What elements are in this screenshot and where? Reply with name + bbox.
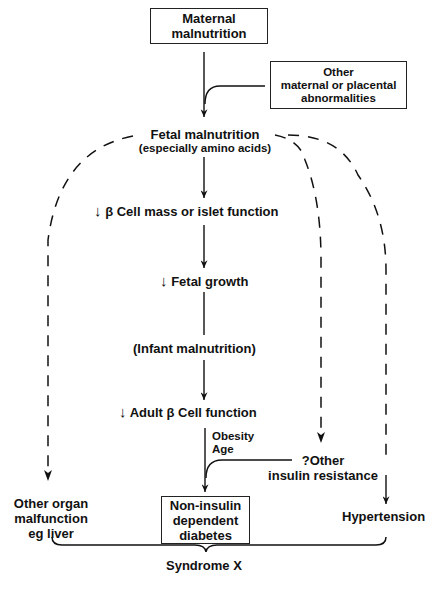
maternal-line1: Maternal xyxy=(182,11,235,26)
dashed-arrowhead-middle xyxy=(317,432,325,443)
other-organ-line2: malfunction xyxy=(6,511,96,526)
other-resistance-line1: ?Other xyxy=(262,453,384,468)
dashed-to-hypertension xyxy=(288,135,386,455)
niddm-line1: Non-insulin xyxy=(170,498,242,513)
other-organ-line1: Other organ xyxy=(6,496,96,511)
adult-beta-cell-text: Adult β Cell function xyxy=(130,405,257,420)
other-organ-line3: eg liver xyxy=(6,526,96,541)
other-line1: Other xyxy=(323,66,354,79)
node-fetal-malnutrition: Fetal malnutrition (especially amino aci… xyxy=(134,127,276,155)
maternal-line2: malnutrition xyxy=(171,26,246,41)
infant-malnutrition-text: (Infant malnutrition) xyxy=(133,341,256,356)
node-adult-beta-cell: ↓ Adult β Cell function xyxy=(119,404,257,420)
hypertension-text: Hypertension xyxy=(342,509,425,524)
node-hypertension: Hypertension xyxy=(342,509,425,524)
node-maternal-malnutrition: Maternal malnutrition xyxy=(150,8,268,44)
dashed-arrowhead-left xyxy=(44,470,52,481)
fetal-malnutrition-subtitle: (especially amino acids) xyxy=(134,142,276,155)
node-syndrome-x: Syndrome X xyxy=(166,558,242,573)
other-line2: maternal or placental xyxy=(281,79,397,92)
fetal-growth-text: Fetal growth xyxy=(171,274,248,289)
niddm-line2: dependent xyxy=(173,513,239,528)
fetal-malnutrition-title: Fetal malnutrition xyxy=(134,127,276,142)
decrease-arrow-icon: ↓ xyxy=(94,202,102,219)
syndrome-x-text: Syndrome X xyxy=(166,558,242,573)
obesity-text: Obesity xyxy=(212,430,254,443)
node-other-maternal-placental: Other maternal or placental abnormalitie… xyxy=(270,61,407,109)
decrease-arrow-icon: ↓ xyxy=(119,403,127,420)
node-obesity-age: Obesity Age xyxy=(212,430,254,456)
node-other-organ-malfunction: Other organ malfunction eg liver xyxy=(6,496,96,541)
node-beta-cell-mass: ↓ β Cell mass or islet function xyxy=(94,203,279,219)
curve-other-to-main xyxy=(205,86,265,104)
decrease-arrow-icon: ↓ xyxy=(160,272,168,289)
node-non-insulin-dependent-diabetes: Non-insulin dependent diabetes xyxy=(161,496,250,544)
niddm-line3: diabetes xyxy=(179,528,232,543)
age-text: Age xyxy=(212,443,254,456)
beta-cell-mass-text: β Cell mass or islet function xyxy=(105,204,278,219)
other-line3: abnormalities xyxy=(301,92,376,105)
node-other-insulin-resistance: ?Other insulin resistance xyxy=(262,453,384,483)
other-resistance-line2: insulin resistance xyxy=(262,468,384,483)
dashed-to-insulin-resistance xyxy=(275,135,321,432)
node-fetal-growth: ↓ Fetal growth xyxy=(160,273,248,289)
node-infant-malnutrition: (Infant malnutrition) xyxy=(133,341,256,356)
